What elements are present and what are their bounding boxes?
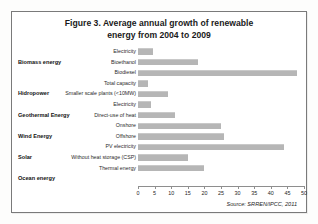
bar-track [138, 152, 304, 163]
category-label: Biodiesel [52, 67, 136, 78]
x-tick-label: 35 [251, 190, 257, 196]
document-page: Figure 3. Average annual growth of renew… [0, 0, 318, 224]
chart-row: Thermal energy [12, 163, 308, 174]
category-label: Direct-use of heat [52, 110, 136, 121]
x-tick [238, 186, 239, 189]
chart-row: Biomass energyBioethanol [12, 57, 308, 68]
x-tick-label: 50 [301, 190, 307, 196]
category-label: PV electricity [52, 141, 136, 152]
chart-row: Total capacity [12, 78, 308, 89]
bar [138, 123, 221, 129]
category-label: Electricity [52, 99, 136, 110]
bar [138, 133, 224, 139]
x-tick-label: 30 [235, 190, 241, 196]
x-tick-label: 10 [168, 190, 174, 196]
category-label: Offshore [52, 131, 136, 142]
bar-track [138, 163, 304, 174]
x-tick [204, 186, 205, 189]
bar [138, 59, 198, 65]
bar-track [138, 99, 304, 110]
bar [138, 48, 153, 54]
x-tick [155, 186, 156, 189]
x-tick [188, 186, 189, 189]
bar-track [138, 67, 304, 78]
source-note: Source: SRREN/IPCC, 2011 [227, 201, 297, 207]
x-tick [271, 186, 272, 189]
category-label: Thermal energy [52, 163, 136, 174]
chart-row: Ocean energy [12, 173, 308, 184]
chart-row: Onshore [12, 120, 308, 131]
bar [138, 112, 175, 118]
bar-track [138, 46, 304, 57]
bar [138, 91, 168, 97]
category-label: Bioethanol [52, 57, 136, 68]
bar [138, 154, 188, 160]
figure-title: Figure 3. Average annual growth of renew… [12, 18, 306, 41]
figure-title-line-2: energy from 2004 to 2009 [12, 30, 306, 42]
bar-track [138, 57, 304, 68]
x-tick [304, 186, 305, 189]
category-label: Onshore [52, 120, 136, 131]
bar-track [138, 110, 304, 121]
x-tick-label: 5 [153, 190, 156, 196]
bar [138, 144, 284, 150]
x-tick-label: 15 [185, 190, 191, 196]
x-tick [254, 186, 255, 189]
bar-track [138, 120, 304, 131]
x-tick-label: 45 [284, 190, 290, 196]
x-tick-label: 40 [268, 190, 274, 196]
bar-track [138, 141, 304, 152]
x-tick [138, 186, 139, 189]
bar-track [138, 173, 304, 184]
category-label: Total capacity [52, 78, 136, 89]
category-label [52, 173, 136, 184]
chart-row: Wind EnergyOffshore [12, 131, 308, 142]
chart-row: HidropowerSmaller scale plants (<10MW) [12, 88, 308, 99]
x-tick-label: 0 [137, 190, 140, 196]
x-tick [171, 186, 172, 189]
bar [138, 101, 151, 107]
chart-row: Biodiesel [12, 67, 308, 78]
bar [138, 165, 204, 171]
bar-track [138, 78, 304, 89]
bar [138, 80, 148, 86]
category-label: Electricity [52, 46, 136, 57]
chart-row: Geothermal EnergyDirect-use of heat [12, 110, 308, 121]
bar-track [138, 88, 304, 99]
chart-row: Electricity [12, 46, 308, 57]
x-tick-label: 20 [201, 190, 207, 196]
chart-rows: ElectricityBiomass energyBioethanolBiodi… [12, 46, 308, 184]
chart-row: Electricity [12, 99, 308, 110]
x-tick [287, 186, 288, 189]
bar-track [138, 131, 304, 142]
chart-row: PV electricity [12, 141, 308, 152]
chart-row: SolarWithout heat storage (CSP) [12, 152, 308, 163]
bar [138, 70, 297, 76]
category-label: Without heat storage (CSP) [52, 152, 136, 163]
bar-chart: ElectricityBiomass energyBioethanolBiodi… [12, 46, 308, 192]
x-tick [221, 186, 222, 189]
category-label: Smaller scale plants (<10MW) [52, 88, 136, 99]
figure-title-line-1: Figure 3. Average annual growth of renew… [12, 18, 306, 30]
x-tick-label: 25 [218, 190, 224, 196]
figure-container: Figure 3. Average annual growth of renew… [11, 11, 307, 213]
x-axis-ticks: 05101520253035404550 [138, 186, 304, 200]
